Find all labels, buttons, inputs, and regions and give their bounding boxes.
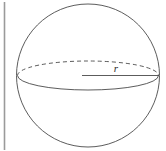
sphere-diagram-figure: r: [0, 0, 166, 151]
sphere-diagram-canvas: r: [0, 0, 166, 151]
radius-label: r: [114, 62, 119, 74]
